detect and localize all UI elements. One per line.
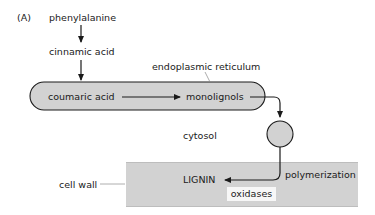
arrow-vesicle-to-lignin <box>225 147 280 180</box>
vesicle-circle <box>267 121 293 147</box>
label-endoplasmic-reticulum: endoplasmic reticulum <box>152 62 260 72</box>
label-oxidases: oxidases <box>227 187 276 201</box>
node-monolignols: monolignols <box>186 92 244 102</box>
node-lignin: LIGNIN <box>183 175 215 185</box>
node-phenylalanine: phenylalanine <box>49 13 116 23</box>
label-cytosol: cytosol <box>183 131 217 141</box>
label-polymerization: polymerization <box>285 170 356 180</box>
panel-label: (A) <box>17 13 31 23</box>
label-cell-wall: cell wall <box>59 180 97 190</box>
node-coumaric-acid: coumaric acid <box>48 92 115 102</box>
node-cinnamic-acid: cinnamic acid <box>49 47 115 57</box>
